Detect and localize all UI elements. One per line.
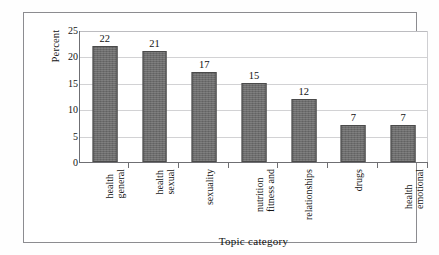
x-axis-title: Topic category — [79, 235, 428, 247]
bar — [92, 46, 117, 162]
bar — [341, 125, 366, 162]
bar-slot: 21 — [130, 31, 180, 162]
bar-slot: 7 — [378, 31, 428, 162]
chart-outer-frame: Percent 0510152025 222117151277 generalh… — [23, 12, 417, 243]
x-axis-category-label-line: health — [104, 169, 115, 198]
bar-slot: 17 — [179, 31, 229, 162]
x-axis-tick-mark — [328, 163, 378, 168]
x-axis-category-label-line: relationships — [303, 169, 314, 220]
x-axis-category-label-line: sexuality — [204, 169, 215, 205]
bar-value-label: 12 — [298, 86, 309, 97]
y-axis-tick-label: 20 — [60, 52, 78, 62]
bar-slot: 7 — [329, 31, 379, 162]
x-axis-tick-mark — [378, 163, 428, 168]
bar-slot: 15 — [229, 31, 279, 162]
bar — [242, 83, 267, 162]
y-axis-tick-label: 25 — [60, 26, 78, 36]
bar-value-label: 7 — [351, 112, 356, 123]
figure-root: Percent 0510152025 222117151277 generalh… — [0, 0, 439, 255]
x-axis-category-label-line: general — [115, 169, 126, 198]
y-axis-tick-labels: 0510152025 — [60, 31, 78, 163]
x-axis-tick-mark — [129, 163, 179, 168]
x-axis-category-label: drugs — [353, 169, 364, 191]
x-axis-category-label: sexuality — [204, 169, 215, 205]
x-axis-label-cell: generalhealth — [79, 169, 129, 231]
bar — [142, 51, 167, 162]
x-axis-category-label: relationships — [303, 169, 314, 220]
x-axis-category-label-line: health — [154, 169, 165, 195]
x-axis-label-cell: fitness andnutrition — [229, 169, 279, 231]
x-axis-category-label: generalhealth — [104, 169, 126, 198]
x-axis-tick-marks — [79, 163, 428, 168]
x-axis-label-cell: sexuality — [179, 169, 229, 231]
x-axis-label-cell: sexualhealth — [129, 169, 179, 231]
bar-slot: 22 — [80, 31, 130, 162]
bar-value-label: 21 — [149, 38, 160, 49]
x-axis-category-label-line: sexual — [165, 169, 176, 195]
bar-value-label: 15 — [249, 70, 260, 81]
plot-area: 222117151277 — [79, 31, 428, 163]
x-axis-tick-mark — [278, 163, 328, 168]
x-axis-category-label: sexualhealth — [154, 169, 176, 195]
bar-value-label: 17 — [199, 59, 210, 70]
x-axis-tick-mark — [79, 163, 129, 168]
bar — [291, 99, 316, 162]
y-axis-tick-label: 10 — [60, 105, 78, 115]
x-axis-category-label-line: health — [403, 169, 414, 209]
x-axis-category-labels: generalhealthsexualhealthsexualityfitnes… — [79, 169, 428, 231]
x-axis-label-cell: relationships — [278, 169, 328, 231]
bar-slot: 12 — [279, 31, 329, 162]
y-axis-tick-label: 0 — [60, 158, 78, 168]
x-axis-category-label-line: emotional — [414, 169, 425, 209]
bar — [391, 125, 416, 162]
x-axis-tick-mark — [229, 163, 279, 168]
x-axis-label-cell: drugs — [328, 169, 378, 231]
x-axis-label-cell: emotionalhealth — [378, 169, 428, 231]
x-axis-category-label-line: nutrition — [254, 169, 265, 212]
x-axis-category-label: fitness andnutrition — [254, 169, 276, 212]
x-axis-category-label-line: fitness and — [265, 169, 276, 212]
x-axis-category-label-line: drugs — [353, 169, 364, 191]
bar-value-label: 7 — [401, 112, 406, 123]
y-axis-tick-label: 5 — [60, 132, 78, 142]
x-axis-category-label: emotionalhealth — [403, 169, 425, 209]
y-axis-tick-label: 15 — [60, 79, 78, 89]
bar-value-label: 22 — [100, 33, 111, 44]
x-axis-tick-mark — [179, 163, 229, 168]
bar — [192, 72, 217, 162]
bars-layer: 222117151277 — [80, 31, 428, 162]
